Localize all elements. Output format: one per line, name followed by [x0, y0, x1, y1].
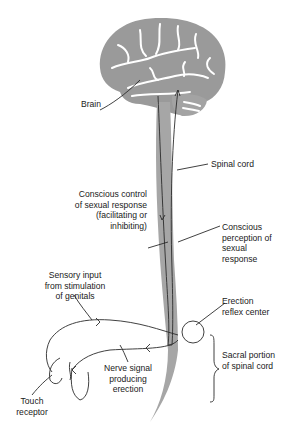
label-spinal-cord: Spinal cord	[211, 159, 254, 170]
label-conscious-control: Conscious control of sexual response (fa…	[62, 189, 147, 231]
label-brain: Brain	[81, 99, 101, 110]
label-erection-reflex-center: Erection reflex center	[222, 296, 269, 317]
label-nerve-signal: Nerve signal producing erection	[98, 363, 158, 395]
label-conscious-perception: Conscious perception of sexual response	[222, 222, 272, 264]
label-touch-receptor: Touch receptor	[12, 396, 52, 417]
brain-illustration	[100, 18, 226, 116]
erection-reflex-diagram: Brain Spinal cord Conscious control of s…	[0, 0, 290, 437]
label-sacral-portion: Sacral portion of spinal cord	[222, 350, 275, 371]
label-sensory-input: Sensory input from stimulation of genita…	[40, 270, 110, 302]
nerve-pathways	[32, 80, 225, 402]
